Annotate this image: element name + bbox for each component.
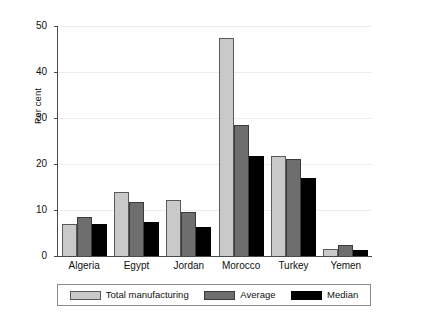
plot-area: 01020304050 AlgeriaEgyptJordanMoroccoTur… — [57, 26, 372, 257]
bar — [338, 245, 353, 257]
x-axis-category-label: Algeria — [58, 260, 110, 271]
bar — [129, 202, 144, 256]
chart-legend: Total manufacturingAverageMedian — [57, 284, 371, 306]
bar-groups: AlgeriaEgyptJordanMoroccoTurkeyYemen — [58, 26, 372, 256]
x-axis-category-label: Yemen — [320, 260, 372, 271]
legend-item[interactable]: Total manufacturing — [70, 290, 189, 300]
bar — [166, 200, 181, 256]
bar-group: Turkey — [267, 26, 319, 256]
bar-group: Yemen — [320, 26, 372, 256]
y-axis-tick-label: 40 — [36, 67, 47, 77]
bar-group: Morocco — [215, 26, 267, 256]
y-axis-tick-label: 0 — [41, 251, 47, 261]
x-axis-category-label: Turkey — [267, 260, 319, 271]
bar — [114, 192, 129, 256]
bar — [219, 38, 234, 257]
legend-swatch-icon — [70, 291, 101, 300]
bar — [77, 217, 92, 256]
legend-label: Total manufacturing — [106, 290, 189, 300]
x-axis-category-label: Morocco — [215, 260, 267, 271]
legend-item[interactable]: Average — [204, 290, 275, 300]
bar-chart-figure: Per cent 01020304050 AlgeriaEgyptJordanM… — [0, 0, 427, 319]
bar — [196, 227, 211, 256]
x-axis-category-label: Jordan — [163, 260, 215, 271]
y-axis-title: Per cent — [32, 66, 43, 146]
bar — [353, 250, 368, 256]
bar — [92, 224, 107, 256]
bar-group: Jordan — [163, 26, 215, 256]
legend-item[interactable]: Median — [291, 290, 358, 300]
y-axis-tick-label: 20 — [36, 159, 47, 169]
bar — [234, 125, 249, 256]
legend-swatch-icon — [204, 291, 235, 300]
y-axis-tick-label: 50 — [36, 21, 47, 31]
bar — [181, 212, 196, 256]
bar — [271, 156, 286, 256]
y-axis-tick-label: 30 — [36, 113, 47, 123]
bar-group: Egypt — [110, 26, 162, 256]
legend-label: Median — [327, 290, 358, 300]
bar — [144, 222, 159, 256]
y-axis-tick-label: 10 — [36, 205, 47, 215]
bar — [249, 156, 264, 256]
bar-group: Algeria — [58, 26, 110, 256]
bar — [286, 159, 301, 256]
bar — [62, 224, 77, 256]
legend-swatch-icon — [291, 291, 322, 300]
legend-label: Average — [240, 290, 275, 300]
bar — [301, 178, 316, 256]
bar — [323, 249, 338, 256]
x-axis-category-label: Egypt — [110, 260, 162, 271]
